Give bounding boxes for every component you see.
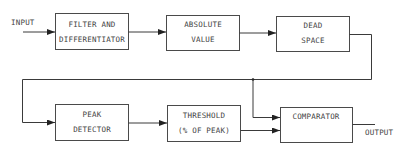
threshold-line-2: (% OF PEAK) <box>178 126 230 135</box>
absolute-value-block: ABSOLUTE VALUE <box>167 16 240 51</box>
input-label: INPUT <box>11 18 35 27</box>
peak-detector-block: PEAK DETECTOR <box>56 105 129 141</box>
deadspace-line-1: DEAD <box>304 21 323 30</box>
deadspace-to-comparator-path <box>253 80 280 118</box>
filter-line-2: DIFFERENTIATOR <box>59 35 125 44</box>
filter-block: FILTER AND DIFFERENTIATOR <box>56 14 129 50</box>
peak-line-1: PEAK <box>83 110 102 119</box>
threshold-block: THRESHOLD (% OF PEAK) <box>168 106 241 142</box>
comparator-label: COMPARATOR <box>292 112 339 121</box>
dead-space-block: DEAD SPACE <box>277 17 350 52</box>
threshold-line-1: THRESHOLD <box>183 111 226 120</box>
deadspace-line-2: SPACE <box>301 36 325 45</box>
block-diagram: INPUT FILTER AND DIFFERENTIATOR ABSOLUTE… <box>0 0 408 150</box>
absolute-line-1: ABSOLUTE <box>184 20 222 29</box>
filter-line-1: FILTER AND <box>68 20 115 29</box>
output-label: OUTPUT <box>365 128 394 137</box>
comparator-block: COMPARATOR <box>281 108 353 143</box>
absolute-line-2: VALUE <box>191 35 215 44</box>
peak-line-2: DETECTOR <box>73 125 111 134</box>
